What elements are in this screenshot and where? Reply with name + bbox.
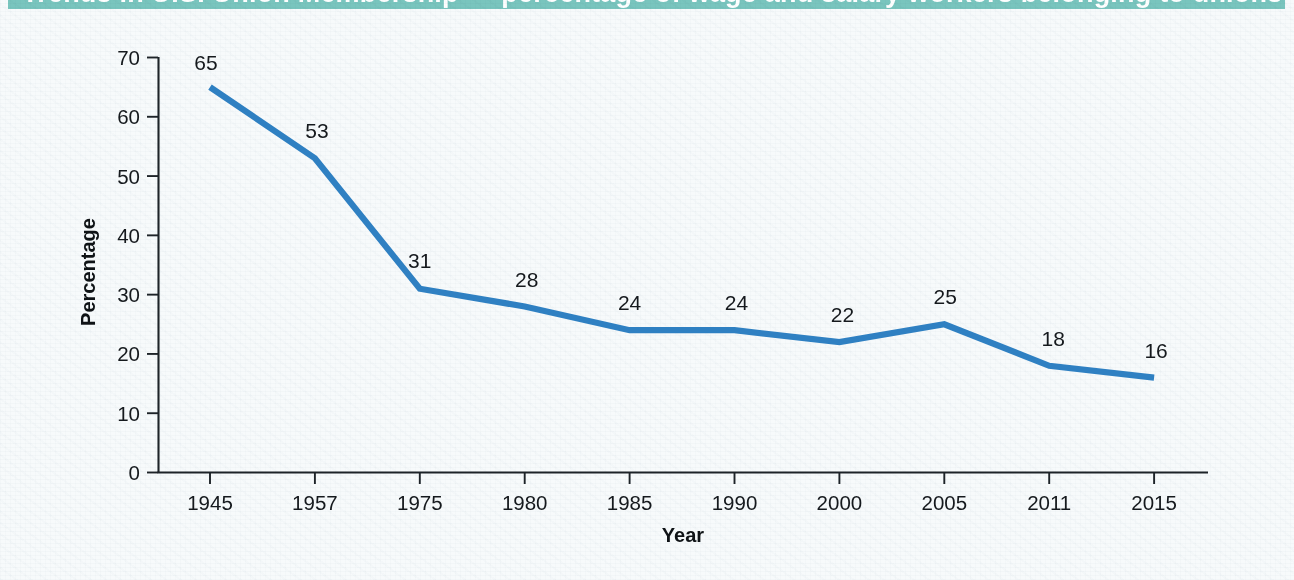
y-tick-label: 50	[117, 165, 140, 188]
y-tick-label: 30	[117, 283, 140, 306]
x-axis-title: Year	[662, 524, 704, 546]
x-tick-label: 1985	[607, 491, 653, 514]
data-series-line	[210, 87, 1154, 378]
x-tick-label: 2015	[1131, 491, 1177, 514]
x-tick-label: 1975	[397, 491, 443, 514]
data-point-label: 25	[934, 285, 957, 308]
data-point-label: 16	[1144, 339, 1167, 362]
data-point-label: 65	[194, 51, 217, 74]
data-point-label: 24	[618, 291, 642, 314]
y-axis-ticks	[147, 58, 158, 473]
x-tick-label: 1990	[712, 491, 758, 514]
x-tick-label: 1980	[502, 491, 548, 514]
y-axis-title: Percentage	[77, 218, 99, 326]
line-chart: 010203040506070 194519571975198019851990…	[0, 0, 1294, 580]
x-tick-label: 1945	[187, 491, 233, 514]
y-tick-label: 70	[117, 46, 140, 69]
x-axis-ticks	[210, 473, 1154, 485]
x-tick-label: 2005	[921, 491, 967, 514]
y-tick-label: 40	[117, 224, 140, 247]
y-tick-label: 20	[117, 342, 140, 365]
chart-page: Trends in U.S. Union Membership — percen…	[0, 0, 1294, 580]
y-tick-label: 60	[117, 105, 140, 128]
x-tick-label: 2000	[817, 491, 863, 514]
y-axis-tick-labels: 010203040506070	[117, 46, 140, 484]
data-point-label: 31	[408, 249, 431, 272]
data-point-labels: 65533128242422251816	[194, 51, 1167, 362]
data-point-label: 18	[1042, 327, 1065, 350]
y-tick-label: 0	[129, 461, 140, 484]
y-tick-label: 10	[117, 402, 140, 425]
x-tick-label: 2011	[1027, 491, 1071, 514]
data-point-label: 24	[725, 291, 749, 314]
data-point-label: 53	[305, 119, 328, 142]
x-tick-label: 1957	[292, 491, 338, 514]
data-point-label: 22	[831, 303, 854, 326]
x-axis-tick-labels: 1945195719751980198519902000200520112015	[187, 491, 1177, 514]
data-point-label: 28	[515, 268, 538, 291]
